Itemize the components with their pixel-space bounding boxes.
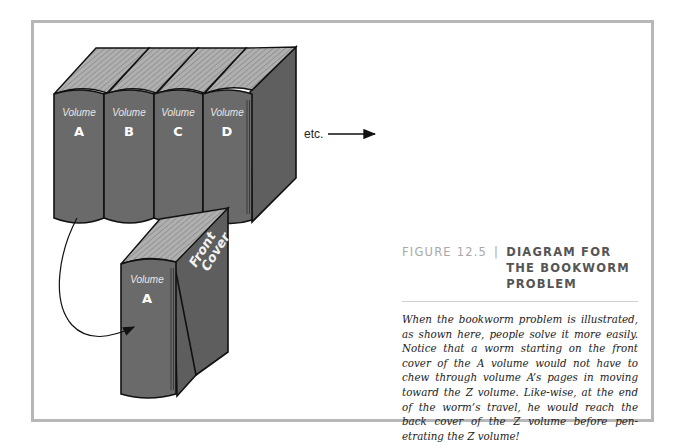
shelf-books: Volume A Volume B Volume C Volume D	[54, 47, 296, 224]
spine-d-volume: Volume	[210, 107, 244, 118]
spine-a-volume: Volume	[62, 107, 96, 118]
caption-header: FIGURE 12.5 | DIAGRAM FOR THE BOOKWORM P…	[402, 244, 638, 292]
caption-divider	[402, 301, 638, 302]
detached-volume-a: Volume A Front Cover	[121, 208, 234, 398]
spine-b-letter: B	[124, 124, 134, 139]
detached-letter: A	[142, 291, 152, 306]
figure-caption: FIGURE 12.5 | DIAGRAM FOR THE BOOKWORM P…	[402, 244, 638, 443]
caption-body: When the bookworm problem is illustrated…	[402, 312, 638, 443]
spine-a-letter: A	[74, 124, 84, 139]
figure-title: DIAGRAM FOR THE BOOKWORM PROBLEM	[506, 244, 638, 292]
spine-d-letter: D	[222, 124, 233, 139]
spine-c-letter: C	[173, 124, 183, 139]
spine-c-volume: Volume	[161, 107, 195, 118]
detached-volume-word: Volume	[130, 274, 164, 285]
figure-label: FIGURE 12.5	[402, 244, 487, 260]
etc-label: etc.	[304, 127, 323, 141]
caption-separator: |	[494, 244, 499, 260]
spine-b-volume: Volume	[112, 107, 146, 118]
